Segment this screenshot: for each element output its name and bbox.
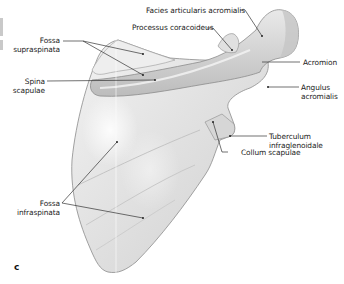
label-line-1: Fossa [10,36,60,45]
label-line-1: Angulus [301,83,338,92]
label-facies-articularis-acromialis: Facies articularis acromialis [146,6,245,15]
label-line-1: Fossa [8,199,60,208]
label-line-2: acromialis [301,92,338,101]
label-fossa-infraspinata: Fossa infraspinata [8,199,60,217]
label-line-2: supraspinata [10,45,60,54]
label-line-2: scapulae [4,86,45,95]
anatomy-figure: Facies articularis acromialis Processus … [0,0,344,284]
label-spina-scapulae: Spina scapulae [4,77,45,95]
panel-letter: c [14,262,19,272]
label-line-1: Tuberculum [269,132,323,141]
label-angulus-acromialis: Angulus acromialis [301,83,338,101]
label-acromion: Acromion [303,58,337,67]
label-processus-coracoideus: Processus coracoideus [132,23,213,32]
label-line-2: infraspinata [8,208,60,217]
label-fossa-supraspinata: Fossa supraspinata [10,36,60,54]
label-collum-scapulae: Collum scapulae [241,148,300,157]
label-line-1: Spina [4,77,45,86]
